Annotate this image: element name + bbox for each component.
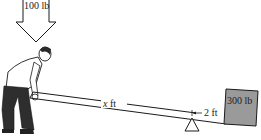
load-arm-label: 2 ft [204, 107, 218, 118]
lever-bar [30, 92, 226, 124]
load-label: 300 lb [227, 95, 252, 106]
applied-force-label: 100 lb [24, 0, 49, 11]
effort-arm-label: x ft [102, 98, 116, 109]
person-figure [2, 47, 51, 134]
lever-diagram: 100 lb x ft 2 ft 300 lb [0, 0, 261, 140]
